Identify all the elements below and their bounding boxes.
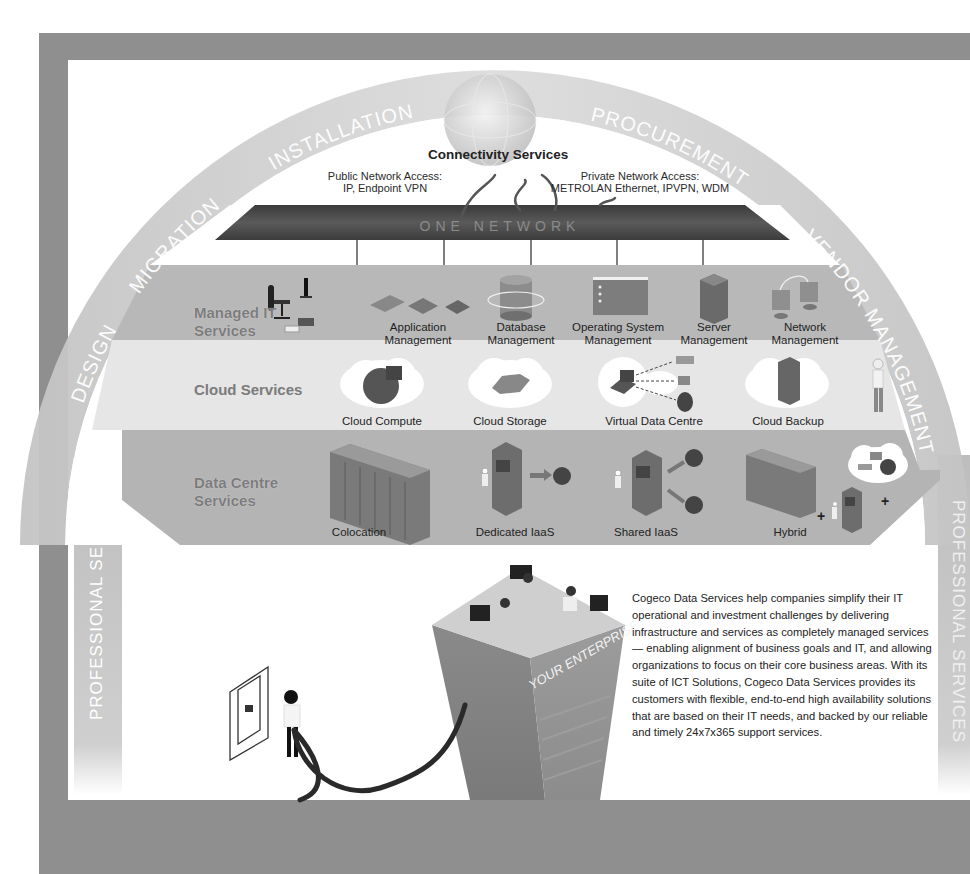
item-cloud-storage: Cloud Storage	[470, 415, 550, 428]
one-network-label: ONE NETWORK	[420, 218, 581, 234]
item-line2: Management	[765, 334, 845, 347]
band-label-data-centre: Data Centre Services	[194, 474, 278, 510]
private-network-line1: Private Network Access:	[550, 170, 730, 182]
item-network-management: Network Management	[765, 321, 845, 347]
item-line1: Operating System	[568, 321, 668, 334]
os-window-icon	[593, 277, 648, 315]
item-line2: Management	[568, 334, 668, 347]
plus-sign-left: +	[817, 508, 825, 524]
cloud-storage-icon	[468, 358, 552, 408]
public-network-access: Public Network Access: IP, Endpoint VPN	[320, 170, 450, 194]
left-professional-services-label: PROFESSIONAL SERVICES	[87, 500, 107, 720]
wall-jack-icon	[230, 667, 268, 760]
item-cloud-compute: Cloud Compute	[342, 415, 422, 428]
network-cable	[294, 705, 465, 800]
item-line2: Management	[674, 334, 754, 347]
item-application-management: Application Management	[378, 321, 458, 347]
item-colocation: Colocation	[329, 526, 389, 539]
item-cloud-backup: Cloud Backup	[748, 415, 828, 428]
item-line1: Network	[765, 321, 845, 334]
plus-sign-right: +	[881, 493, 889, 509]
band-label-line2: Services	[194, 322, 277, 340]
item-virtual-data-centre: Virtual Data Centre	[594, 415, 714, 428]
item-hybrid: Hybrid	[770, 526, 810, 539]
band-label-line1: Data Centre	[194, 474, 278, 492]
item-shared-iaas: Shared IaaS	[606, 526, 686, 539]
band-label-line1: Cloud Services	[194, 381, 302, 399]
cloud-backup-icon	[745, 357, 829, 408]
server-tower-icon	[700, 274, 728, 324]
private-network-line2: METROLAN Ethernet, IPVPN, WDM	[550, 182, 730, 194]
band-label-cloud: Cloud Services	[194, 381, 302, 399]
standing-person-icon	[873, 359, 883, 412]
band-label-line2: Services	[194, 492, 278, 510]
public-network-line1: Public Network Access:	[320, 170, 450, 182]
description-paragraph: Cogeco Data Services help companies simp…	[632, 590, 932, 741]
item-database-management: Database Management	[481, 321, 561, 347]
item-line1: Server	[674, 321, 754, 334]
right-professional-services-label: PROFESSIONAL SERVICES	[948, 500, 968, 720]
connectivity-title: Connectivity Services	[428, 147, 568, 162]
item-line2: Management	[378, 334, 458, 347]
item-line2: Management	[481, 334, 561, 347]
item-line1: Database	[481, 321, 561, 334]
band-label-line1: Managed IT	[194, 304, 277, 322]
private-network-access: Private Network Access: METROLAN Etherne…	[550, 170, 730, 194]
item-os-management: Operating System Management	[568, 321, 668, 347]
public-network-line2: IP, Endpoint VPN	[320, 182, 450, 194]
item-line1: Application	[378, 321, 458, 334]
band-label-managed-it: Managed IT Services	[194, 304, 277, 340]
item-server-management: Server Management	[674, 321, 754, 347]
diagram-graphics: DESIGN MIGRATION INSTALLATION PROCUREMEN…	[0, 0, 970, 874]
item-dedicated-iaas: Dedicated IaaS	[470, 526, 560, 539]
